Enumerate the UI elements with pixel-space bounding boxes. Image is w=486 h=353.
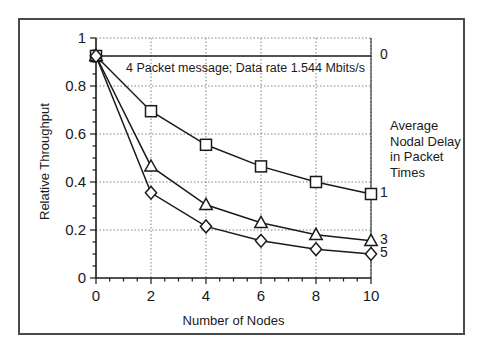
x-axis-title: Number of Nodes [0, 314, 467, 327]
x-axis-tick-label: 2 [131, 288, 171, 303]
y-axis-tick-label: 0 [40, 270, 86, 285]
marker-diamond [310, 243, 321, 256]
marker-diamond [200, 220, 211, 233]
marker-square [146, 106, 157, 117]
x-axis-tick-label: 4 [186, 288, 226, 303]
x-axis-tick-label: 10 [351, 288, 391, 303]
series-line-1 [96, 56, 371, 194]
y-axis-title: Relative Throughput [38, 103, 51, 220]
marker-diamond [145, 186, 156, 199]
x-axis-tick-label: 8 [296, 288, 336, 303]
legend-title-line: in Packet [390, 149, 461, 165]
marker-triangle [200, 198, 212, 209]
series-line-3 [96, 56, 371, 241]
legend-title-line: Times [390, 165, 461, 181]
series-label-5: 5 [380, 245, 388, 259]
figure-container: 00.20.40.60.810246810Number of NodesRela… [0, 0, 486, 353]
x-axis-tick-label: 0 [76, 288, 116, 303]
legend-title: AverageNodal Delayin PacketTimes [390, 118, 461, 180]
series-label-0: 0 [380, 47, 388, 61]
y-axis-tick-label: 0.2 [40, 222, 86, 237]
legend-title-line: Average [390, 118, 461, 134]
marker-square [256, 161, 267, 172]
x-axis-tick-label: 6 [241, 288, 281, 303]
marker-triangle [145, 160, 157, 171]
marker-square [366, 189, 377, 200]
marker-diamond [255, 234, 266, 247]
series-label-1: 1 [380, 185, 388, 199]
legend-title-line: Nodal Delay [390, 134, 461, 150]
marker-square [201, 139, 212, 150]
marker-diamond [365, 248, 376, 261]
chart-annotation: 4 Packet message; Data rate 1.544 Mbits/… [126, 62, 365, 75]
marker-square [311, 177, 322, 188]
y-axis-tick-label: 1 [40, 30, 86, 45]
y-axis-tick-label: 0.8 [40, 78, 86, 93]
